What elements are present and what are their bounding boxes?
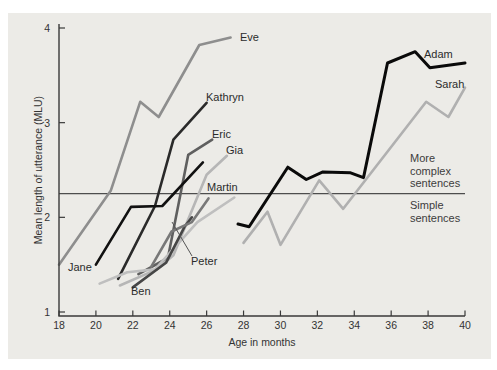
series-label-eric: Eric bbox=[212, 128, 231, 140]
series-line-jane bbox=[96, 162, 203, 264]
x-tick-label-34: 34 bbox=[348, 319, 360, 331]
series-label-sarah: Sarah bbox=[435, 78, 464, 90]
series-label-gia: Gia bbox=[226, 144, 243, 156]
series-label-adam: Adam bbox=[424, 48, 453, 60]
x-tick-label-26: 26 bbox=[201, 319, 213, 331]
x-tick-label-24: 24 bbox=[164, 319, 176, 331]
x-tick-label-18: 18 bbox=[53, 319, 65, 331]
x-tick-label-22: 22 bbox=[127, 319, 139, 331]
x-tick-label-32: 32 bbox=[312, 319, 324, 331]
x-tick-label-38: 38 bbox=[422, 319, 434, 331]
series-line-eve bbox=[59, 38, 231, 265]
y-tick-label-1: 1 bbox=[32, 306, 50, 318]
series-label-ben: Ben bbox=[131, 285, 151, 297]
y-tick-label-3: 3 bbox=[32, 117, 50, 129]
x-tick-label-28: 28 bbox=[238, 319, 250, 331]
annotation-more-complex-sentences: More complex sentences bbox=[410, 152, 476, 190]
annotation-simple-sentences: Simple sentences bbox=[410, 199, 476, 224]
figure: Mean length of utterance (MLU) Age in mo… bbox=[0, 0, 497, 370]
x-tick-label-20: 20 bbox=[90, 319, 102, 331]
y-tick-label-2: 2 bbox=[32, 211, 50, 223]
series-label-martin: Martin bbox=[207, 181, 238, 193]
x-tick-label-40: 40 bbox=[459, 319, 471, 331]
series-label-jane: Jane bbox=[68, 261, 92, 273]
axes bbox=[59, 24, 465, 316]
series-label-peter: Peter bbox=[191, 255, 217, 267]
series-label-kathryn: Kathryn bbox=[206, 91, 244, 103]
y-tick-label-4: 4 bbox=[32, 22, 50, 34]
y-axis-title: Mean length of utterance (MLU) bbox=[32, 80, 44, 260]
x-tick-label-36: 36 bbox=[385, 319, 397, 331]
x-axis-title: Age in months bbox=[192, 336, 332, 348]
series-label-eve: Eve bbox=[240, 31, 259, 43]
x-tick-label-30: 30 bbox=[275, 319, 287, 331]
